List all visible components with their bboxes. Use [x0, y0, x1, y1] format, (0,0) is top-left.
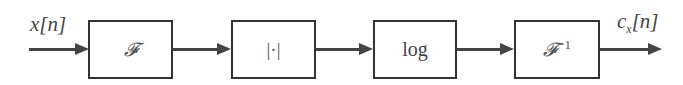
- arrow-1-line: [173, 48, 219, 51]
- arrow-2-head: [359, 43, 373, 55]
- log-block: log: [373, 20, 457, 79]
- output-label: cx[n]: [617, 9, 659, 37]
- log-label: log: [402, 38, 428, 61]
- arrow-1-head: [217, 43, 231, 55]
- input-arrow-line: [29, 48, 77, 51]
- magnitude-block: |·|: [231, 20, 316, 79]
- inverse-fourier-label: 𝓕−1: [543, 37, 571, 61]
- arrow-3-head: [500, 43, 514, 55]
- output-label-main: c: [617, 9, 626, 33]
- arrow-3-line: [457, 48, 502, 51]
- arrow-2-line: [316, 48, 361, 51]
- inverse-fourier-block: 𝓕−1: [514, 20, 600, 79]
- inverse-superscript: −1: [557, 37, 571, 52]
- input-arrow-head: [75, 43, 89, 55]
- fourier-transform-block: 𝓕: [88, 20, 173, 79]
- input-label: x[n]: [30, 12, 66, 37]
- output-label-tail: [n]: [632, 9, 659, 33]
- magnitude-label: |·|: [267, 39, 281, 61]
- fourier-label: 𝓕: [124, 38, 138, 61]
- output-arrow-head: [648, 43, 662, 55]
- inverse-fourier-symbol: 𝓕: [543, 39, 557, 61]
- output-arrow-line: [600, 48, 650, 51]
